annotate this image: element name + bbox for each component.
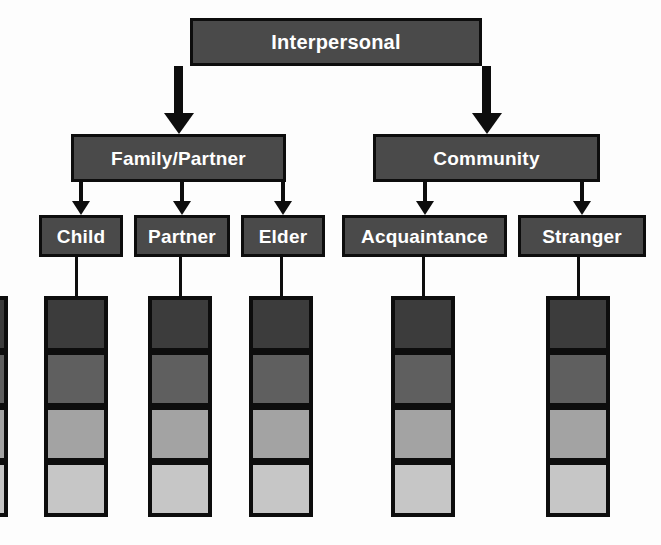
node-acquaintance[interactable]: Acquaintance <box>342 215 507 257</box>
node-family-partner[interactable]: Family/Partner <box>71 134 286 182</box>
gradient-swatch-scale-elder-step-2 <box>249 351 313 407</box>
community-to-stranger-arrowhead <box>573 201 591 215</box>
gradient-swatch-scale-elder-step-3 <box>249 406 313 462</box>
node-partner-label: Partner <box>148 227 216 246</box>
community-to-stranger-line <box>580 182 584 202</box>
family-partner-to-partner-arrowhead <box>173 201 191 215</box>
gradient-swatch-scale-partner-step-3 <box>148 406 212 462</box>
gradient-swatch-scale-elder-step-1 <box>249 296 313 352</box>
gradient-swatch-scale-acquaintance-step-1 <box>391 296 455 352</box>
interpersonal-hierarchy-diagram: Interpersonal Family/Partner Community C… <box>0 0 661 545</box>
family-partner-to-child-line <box>79 182 83 202</box>
node-partner[interactable]: Partner <box>134 215 230 257</box>
gradient-swatch-scale-child-step-2 <box>44 351 108 407</box>
node-interpersonal[interactable]: Interpersonal <box>190 18 482 66</box>
node-family-partner-label: Family/Partner <box>111 149 246 168</box>
node-community[interactable]: Community <box>373 134 600 182</box>
node-elder-label: Elder <box>259 227 308 246</box>
node-elder[interactable]: Elder <box>241 215 325 257</box>
gradient-swatch-scale-stranger-step-3 <box>546 406 610 462</box>
node-child-label: Child <box>57 227 106 246</box>
gradient-swatch-scale-child-step-1 <box>44 296 108 352</box>
family-partner-to-child-arrowhead <box>72 201 90 215</box>
interpersonal-to-community-arrowhead <box>472 113 502 134</box>
gradient-swatch-scale-child-step-3 <box>44 406 108 462</box>
gradient-swatch-scale-cut-off-step-3 <box>0 406 8 462</box>
gradient-swatch-scale-stranger-step-4 <box>546 461 610 517</box>
stranger-to-scale-line <box>577 257 580 298</box>
family-partner-to-partner-line <box>180 182 184 202</box>
gradient-swatch-scale-stranger-step-2 <box>546 351 610 407</box>
community-to-acquaintance-line <box>423 182 427 202</box>
partner-to-scale-line <box>179 257 182 298</box>
acquaintance-to-scale-line <box>422 257 425 298</box>
community-to-acquaintance-arrowhead <box>416 201 434 215</box>
node-acquaintance-label: Acquaintance <box>361 227 488 246</box>
node-stranger[interactable]: Stranger <box>518 215 646 257</box>
node-interpersonal-label: Interpersonal <box>271 32 400 52</box>
gradient-swatch-scale-child-step-4 <box>44 461 108 517</box>
gradient-swatch-scale-acquaintance-step-2 <box>391 351 455 407</box>
node-stranger-label: Stranger <box>542 227 622 246</box>
elder-to-scale-line <box>280 257 283 298</box>
family-partner-to-elder-line <box>281 182 285 202</box>
family-partner-to-elder-arrowhead <box>274 201 292 215</box>
gradient-swatch-scale-partner-step-4 <box>148 461 212 517</box>
gradient-swatch-scale-stranger-step-1 <box>546 296 610 352</box>
gradient-swatch-scale-cut-off-step-1 <box>0 296 8 352</box>
gradient-swatch-scale-cut-off-step-2 <box>0 351 8 407</box>
gradient-swatch-scale-partner-step-2 <box>148 351 212 407</box>
gradient-swatch-scale-acquaintance-step-4 <box>391 461 455 517</box>
interpersonal-to-family-partner-line <box>174 66 183 115</box>
node-child[interactable]: Child <box>39 215 123 257</box>
child-to-scale-line <box>75 257 78 298</box>
interpersonal-to-family-partner-arrowhead <box>164 113 194 134</box>
interpersonal-to-community-line <box>482 66 491 115</box>
gradient-swatch-scale-acquaintance-step-3 <box>391 406 455 462</box>
gradient-swatch-scale-cut-off-step-4 <box>0 461 8 517</box>
gradient-swatch-scale-partner-step-1 <box>148 296 212 352</box>
node-community-label: Community <box>433 149 539 168</box>
gradient-swatch-scale-elder-step-4 <box>249 461 313 517</box>
